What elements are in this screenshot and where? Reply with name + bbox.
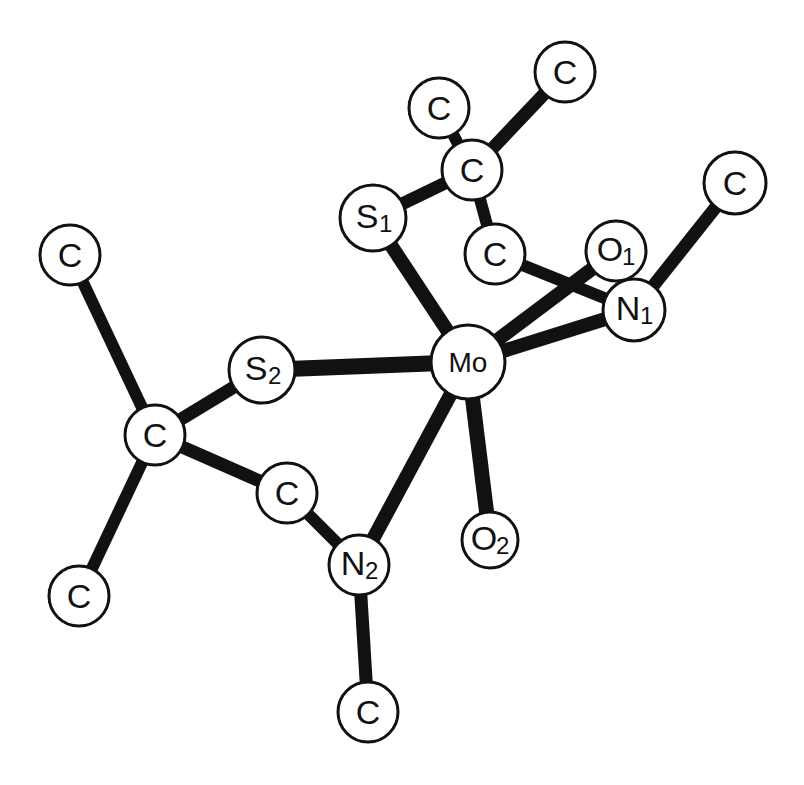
atom-label: O: [471, 519, 497, 557]
atom-subscript: 2: [365, 557, 378, 584]
atom-c_quat2: C: [125, 405, 185, 465]
atom-label: N: [341, 544, 366, 582]
atom-c_topleft: C: [409, 78, 469, 138]
atom-subscript: 1: [640, 302, 653, 329]
atom-n2: N2: [329, 535, 389, 595]
atom-subscript: 1: [622, 243, 635, 270]
atom-o2: O2: [462, 512, 518, 568]
atom-c_left: C: [40, 225, 100, 285]
atom-c_ch2_1: C: [465, 224, 525, 284]
atom-label: C: [723, 164, 748, 202]
atom-label: O: [597, 230, 623, 268]
atom-label: C: [553, 53, 578, 91]
atom-subscript: 1: [379, 210, 392, 237]
atom-c_ch2_2: C: [257, 463, 317, 523]
atom-label: C: [58, 236, 83, 274]
atom-s1: S1: [340, 185, 406, 251]
atom-s2: S2: [229, 337, 295, 403]
atom-subscript: 2: [496, 532, 509, 559]
atom-c_right: C: [704, 152, 766, 214]
atom-label: S: [245, 349, 268, 387]
atom-o1: O1: [586, 221, 646, 281]
atom-c_bottom: C: [338, 682, 398, 742]
atom-c_top: C: [535, 42, 595, 102]
background: [0, 0, 804, 785]
atom-c_botleft: C: [49, 566, 109, 626]
atom-label: C: [356, 693, 381, 731]
atom-label: N: [616, 289, 641, 327]
atom-n1: N1: [603, 279, 665, 341]
atom-label: C: [460, 151, 485, 189]
atom-mo: Mo: [431, 325, 505, 399]
atom-label: Mo: [449, 347, 488, 378]
atom-subscript: 2: [268, 362, 281, 389]
molecule-diagram: CCCCS1CO1N1CS2MoCCO2N2CC: [0, 0, 804, 785]
atom-label: C: [483, 235, 508, 273]
atom-label: C: [275, 474, 300, 512]
atom-label: C: [427, 89, 452, 127]
atom-label: C: [143, 416, 168, 454]
atom-label: S: [356, 197, 379, 235]
atom-label: C: [67, 577, 92, 615]
atom-c_quat1: C: [442, 140, 502, 200]
